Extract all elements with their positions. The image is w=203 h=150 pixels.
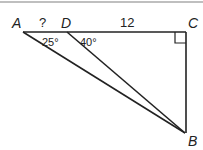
point-label-C: C xyxy=(188,15,199,31)
right-angle-marker xyxy=(175,32,186,43)
point-label-A: A xyxy=(11,15,21,31)
segment-label-DC: 12 xyxy=(120,15,134,30)
triangle-diagram: A D C B ? 12 25° 40° xyxy=(0,0,203,150)
angle-label-D: 40° xyxy=(80,36,97,48)
segment-label-AD: ? xyxy=(39,15,46,30)
point-label-B: B xyxy=(188,133,197,149)
point-label-D: D xyxy=(61,15,71,31)
angle-label-A: 25° xyxy=(42,36,59,48)
